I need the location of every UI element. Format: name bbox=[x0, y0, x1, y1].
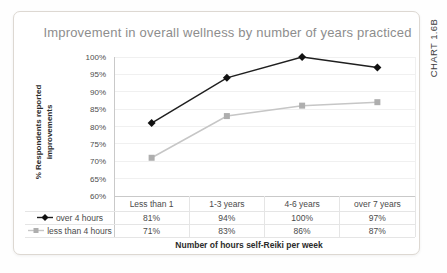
square-marker bbox=[299, 103, 305, 109]
y-tick-label: 100% bbox=[72, 53, 106, 62]
diamond-marker bbox=[298, 53, 306, 61]
chart-page: Improvement in overall wellness by numbe… bbox=[0, 0, 447, 273]
line-square-marker-icon bbox=[28, 226, 44, 235]
diamond-marker bbox=[223, 74, 231, 82]
category-label: 4-6 years bbox=[265, 199, 340, 209]
square-marker bbox=[224, 113, 230, 119]
diamond-marker bbox=[148, 119, 156, 127]
y-tick-label: 95% bbox=[72, 70, 106, 79]
category-label: 1-3 years bbox=[189, 199, 264, 209]
line-diamond-marker-icon bbox=[37, 213, 53, 222]
value-cell: 71% bbox=[114, 226, 189, 236]
value-cell: 87% bbox=[340, 226, 415, 236]
y-tick-label: 60% bbox=[72, 192, 106, 201]
chart-code-label: CHART 1.6B bbox=[428, 19, 439, 78]
legend-item: less than 4 hours bbox=[27, 226, 113, 236]
y-tick-label: 85% bbox=[72, 105, 106, 114]
square-marker bbox=[149, 155, 155, 161]
y-tick-label: 75% bbox=[72, 139, 106, 148]
legend-item: over 4 hours bbox=[27, 213, 113, 223]
y-tick-label: 65% bbox=[72, 174, 106, 183]
y-tick-label: 90% bbox=[72, 87, 106, 96]
legend-label: less than 4 hours bbox=[47, 226, 112, 236]
series-line-over-4-hours bbox=[152, 57, 378, 123]
series-line-less-than-4-hours bbox=[152, 102, 378, 158]
square-marker bbox=[374, 99, 380, 105]
diamond-marker bbox=[373, 63, 381, 71]
category-label: Less than 1 bbox=[114, 199, 189, 209]
x-axis-title: Number of hours self-Reiki per week bbox=[114, 240, 384, 250]
value-cell: 86% bbox=[265, 226, 340, 236]
category-label: over 7 years bbox=[340, 199, 415, 209]
y-tick-label: 80% bbox=[72, 122, 106, 131]
value-cell: 94% bbox=[189, 213, 264, 223]
value-cell: 83% bbox=[189, 226, 264, 236]
value-cell: 97% bbox=[340, 213, 415, 223]
value-cell: 100% bbox=[265, 213, 340, 223]
value-cell: 81% bbox=[114, 213, 189, 223]
y-tick-label: 70% bbox=[72, 157, 106, 166]
legend-label: over 4 hours bbox=[56, 213, 103, 223]
